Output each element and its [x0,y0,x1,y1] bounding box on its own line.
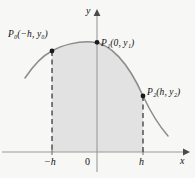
point-label-p1-text: P₁(0, y₁) [101,38,134,48]
x-axis-label: x [180,156,184,166]
tick-label-negative-h: −h [44,157,56,167]
y-axis-arrowhead [94,9,101,16]
point-label-p1: P₁(0, y₁) [101,39,134,49]
point-label-p2-text: P₂(h, y₂) [147,87,180,97]
point-marker-p2 [141,94,146,99]
parabola-figure: P₀(−h, y₀) P₁(0, y₁) P₂(h, y₂) y x −h 0 … [0,0,195,178]
y-axis-label: y [86,6,90,16]
tick-label-origin: 0 [85,157,90,167]
point-marker-p1 [95,40,100,45]
tick-label-positive-h: h [139,157,144,167]
point-label-p0: P₀(−h, y₀) [8,30,48,40]
point-label-p2: P₂(h, y₂) [147,88,180,98]
point-marker-p0 [50,49,55,54]
x-axis-arrowhead [183,148,190,155]
point-label-p0-text: P₀(−h, y₀) [8,29,48,39]
